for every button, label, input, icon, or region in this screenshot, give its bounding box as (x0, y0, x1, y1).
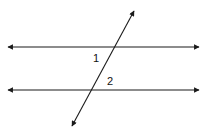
angle-2-label: 2 (107, 75, 113, 87)
angle-1-label: 1 (93, 52, 99, 64)
parallel-lines-diagram: 1 2 (0, 0, 207, 134)
transversal-line (72, 11, 134, 126)
